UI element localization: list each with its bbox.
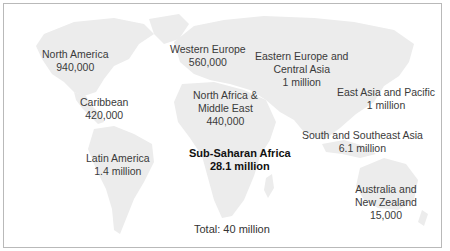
new-zealand-landmass (418, 210, 428, 226)
region-value: 560,000 (170, 56, 246, 69)
region-sub-saharan-africa: Sub-Saharan Africa 28.1 million (189, 147, 291, 173)
region-value: 940,000 (42, 61, 109, 74)
region-australia-new-zealand: Australia and New Zealand 15,000 (355, 183, 417, 222)
region-name: Caribbean (80, 96, 128, 109)
region-name-line-1: Australia and (355, 183, 417, 196)
region-value: 440,000 (193, 115, 258, 128)
region-value: 420,000 (80, 109, 128, 122)
region-value: 1 million (255, 76, 348, 89)
region-east-asia-pacific: East Asia and Pacific 1 million (337, 86, 435, 112)
madagascar-landmass (264, 174, 274, 198)
world-map-frame: North America 940,000 Caribbean 420,000 … (3, 3, 442, 248)
region-name: South and Southeast Asia (302, 129, 423, 142)
region-value: 6.1 million (302, 142, 423, 155)
south-america-landmass (88, 126, 154, 234)
region-name-line-1: Eastern Europe and (255, 50, 348, 63)
region-value: 28.1 million (189, 160, 291, 173)
region-name: Western Europe (170, 43, 246, 56)
region-name: North America (42, 48, 109, 61)
region-caribbean: Caribbean 420,000 (80, 96, 128, 122)
region-eastern-europe-central-asia: Eastern Europe and Central Asia 1 millio… (255, 50, 348, 89)
region-name: East Asia and Pacific (337, 86, 435, 99)
region-value: 1.4 million (86, 165, 150, 178)
region-name: Latin America (86, 152, 150, 165)
region-north-africa-middle-east: North Africa & Middle East 440,000 (193, 89, 258, 128)
region-name: Sub-Saharan Africa (189, 147, 291, 160)
region-name-line-2: Middle East (193, 102, 258, 115)
region-western-europe: Western Europe 560,000 (170, 43, 246, 69)
region-value: 15,000 (355, 209, 417, 222)
region-value: 1 million (337, 99, 435, 112)
region-name-line-1: North Africa & (193, 89, 258, 102)
region-name-line-2: New Zealand (355, 196, 417, 209)
region-latin-america: Latin America 1.4 million (86, 152, 150, 178)
total-label: Total: 40 million (194, 223, 270, 235)
region-name-line-2: Central Asia (255, 63, 348, 76)
region-north-america: North America 940,000 (42, 48, 109, 74)
region-south-southeast-asia: South and Southeast Asia 6.1 million (302, 129, 423, 155)
